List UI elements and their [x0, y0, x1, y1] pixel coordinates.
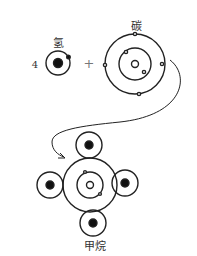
methane-label: 甲烷 — [84, 237, 106, 253]
diagram-graphics — [0, 0, 197, 256]
hydrogen-label: 氢 — [53, 34, 64, 50]
methane-molecule — [37, 132, 138, 236]
carbon-atom — [103, 32, 165, 95]
plus-sign: + — [84, 56, 95, 71]
hydrogen-atom — [46, 51, 70, 75]
reaction-arrow — [52, 60, 180, 157]
hydrogen-count: 4 — [32, 59, 38, 70]
carbon-label: 碳 — [131, 17, 142, 33]
methane-formation-diagram: 氢 4 + 碳 甲烷 — [0, 0, 197, 256]
